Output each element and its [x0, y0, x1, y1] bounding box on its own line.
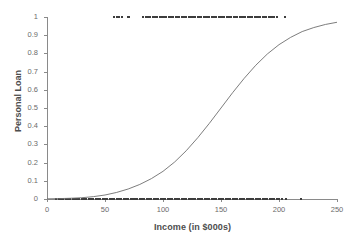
y-tick-label: 0: [0, 195, 38, 203]
x-tick-label: 200: [259, 206, 299, 214]
y-tick-label: 1: [0, 13, 38, 21]
data-point: [300, 198, 302, 200]
y-tick-label: 0.9: [0, 31, 38, 39]
data-point: [284, 16, 286, 18]
x-axis-title: Income (in $000s): [47, 222, 338, 232]
data-point: [128, 16, 130, 18]
plot-area: [47, 17, 337, 199]
x-tick-label: 250: [317, 206, 357, 214]
x-tick: [47, 199, 48, 202]
x-tick-label: 0: [27, 206, 67, 214]
data-point: [276, 16, 278, 18]
data-point: [285, 198, 287, 200]
data-point: [281, 198, 283, 200]
y-tick-label: 0.1: [0, 177, 38, 185]
x-tick-label: 50: [85, 206, 125, 214]
logistic-regression-chart: 00.10.20.30.40.50.60.70.80.91 0501001502…: [0, 0, 361, 247]
x-tick: [337, 199, 338, 202]
x-tick-label: 150: [201, 206, 241, 214]
y-axis-title: Personal Loan: [13, 41, 23, 161]
x-tick-label: 100: [143, 206, 183, 214]
data-point: [118, 16, 120, 18]
data-point: [121, 16, 123, 18]
data-point: [278, 198, 280, 200]
